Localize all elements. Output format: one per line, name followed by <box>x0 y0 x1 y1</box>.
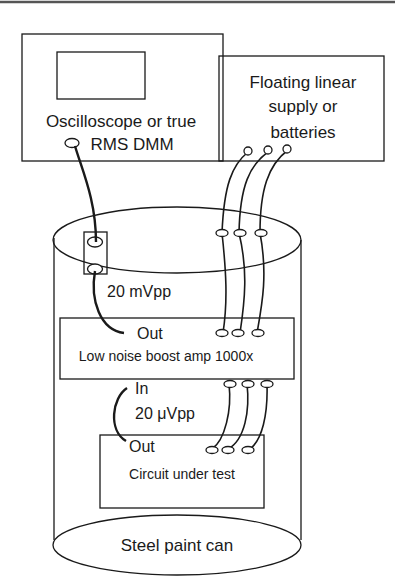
scope-input-jack-icon <box>65 139 79 148</box>
amp-output-cable <box>94 271 124 333</box>
amp-power-terminal-1-icon <box>216 330 228 337</box>
amp-aux-terminal-2-icon <box>242 381 254 388</box>
supply-box: Floating linear supply or batteries <box>219 56 384 161</box>
supply-power-wires <box>216 145 291 337</box>
amp-input-cable <box>114 388 127 441</box>
test-setup-diagram: Oscilloscope or true RMS DMM Floating li… <box>0 0 395 584</box>
supply-terminal-1-icon <box>244 147 252 155</box>
supply-label-line3: batteries <box>270 123 335 142</box>
dut-terminal-3-icon <box>242 447 254 454</box>
amp-in-label: In <box>135 380 148 397</box>
lid-terminal-2-icon <box>234 230 246 237</box>
supply-label-line1: Floating linear <box>250 73 357 92</box>
amp-power-terminal-2-icon <box>232 330 244 337</box>
instrument-label-line2: RMS DMM <box>90 135 173 154</box>
can-label: Steel paint can <box>121 536 233 555</box>
amp-power-terminal-3-icon <box>252 330 264 337</box>
dut-label: Circuit under test <box>129 466 235 482</box>
lid-terminal-3-icon <box>255 230 267 237</box>
amp-out-label: Out <box>137 325 163 342</box>
supply-terminal-2-icon <box>264 146 272 154</box>
amp-label: Low noise boost amp 1000x <box>79 348 253 364</box>
dut-power-wires <box>206 381 273 454</box>
signal-in-level: 20 μVpp <box>135 405 195 422</box>
dut-terminal-2-icon <box>222 447 234 454</box>
oscilloscope-box: Oscilloscope or true RMS DMM <box>22 34 223 161</box>
supply-label-line2: supply or <box>269 97 338 116</box>
supply-terminal-3-icon <box>283 145 291 153</box>
amp-aux-terminal-1-icon <box>224 381 236 388</box>
lid-terminal-1-icon <box>216 230 228 237</box>
scope-screen-icon <box>57 52 145 99</box>
circuit-under-test-box: Out Circuit under test <box>100 435 264 508</box>
dut-out-label: Out <box>129 438 155 455</box>
dut-terminal-1-icon <box>206 447 218 454</box>
instrument-label-line1: Oscilloscope or true <box>46 112 196 131</box>
signal-out-level: 20 mVpp <box>107 283 171 300</box>
amp-aux-terminal-3-icon <box>261 381 273 388</box>
